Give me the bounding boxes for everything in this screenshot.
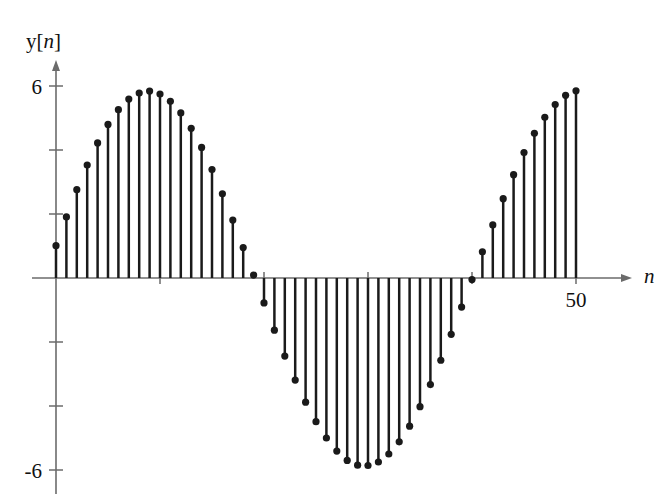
- y-axis-arrow: [52, 60, 60, 71]
- stem-marker: [104, 121, 111, 128]
- stem-marker: [115, 106, 122, 113]
- stem-5: [104, 121, 111, 278]
- stem-marker: [416, 403, 423, 410]
- stem-50: [572, 87, 579, 278]
- stem-26: [323, 278, 330, 442]
- stem-marker: [312, 418, 319, 425]
- stem-marker: [188, 125, 195, 132]
- x-axis-label: n: [644, 264, 655, 288]
- stem-1: [63, 213, 70, 278]
- stem-29: [354, 278, 361, 469]
- stem-marker: [125, 96, 132, 103]
- stem-marker: [63, 213, 70, 220]
- stem-marker: [531, 130, 538, 137]
- x-tick-label-50: 50: [566, 288, 587, 312]
- stem-marker: [468, 276, 475, 283]
- stem-marker: [177, 109, 184, 116]
- stem-18: [240, 244, 247, 278]
- stem-marker: [292, 376, 299, 383]
- stem-marker: [250, 272, 257, 279]
- stem-25: [312, 278, 319, 425]
- stem-32: [385, 278, 392, 458]
- stem-12: [177, 109, 184, 278]
- stem-38: [448, 278, 455, 338]
- stem-marker: [354, 462, 361, 469]
- stem-marker: [489, 221, 496, 228]
- stem-0: [52, 242, 59, 278]
- stem-28: [344, 278, 351, 464]
- stem-marker: [552, 101, 559, 108]
- stem-marker: [333, 448, 340, 455]
- stem-43: [500, 195, 507, 278]
- stem-39: [458, 278, 465, 311]
- y-tick-label-minus6: -6: [25, 459, 43, 483]
- stem-marker: [260, 299, 267, 306]
- stem-marker: [146, 88, 153, 95]
- stem-marker: [302, 399, 309, 406]
- stem-2: [73, 186, 80, 278]
- stem-40: [468, 276, 475, 283]
- stem-marker: [458, 304, 465, 311]
- stem-marker: [500, 195, 507, 202]
- stem-35: [416, 278, 423, 410]
- stem-marker: [520, 149, 527, 156]
- stem-23: [292, 278, 299, 384]
- stem-17: [229, 216, 236, 278]
- stem-49: [562, 92, 569, 278]
- stem-marker: [219, 190, 226, 197]
- stem-marker: [94, 139, 101, 146]
- stem-marker: [208, 166, 215, 173]
- stem-10: [156, 90, 163, 278]
- stem-37: [437, 278, 444, 364]
- stem-marker: [323, 434, 330, 441]
- stem-marker: [84, 161, 91, 168]
- stem-marker: [156, 90, 163, 97]
- stem-45: [520, 149, 527, 278]
- stem-22: [281, 278, 288, 360]
- stem-marker: [136, 89, 143, 96]
- stem-marker: [52, 242, 59, 249]
- stem-marker: [541, 114, 548, 121]
- stem-7: [125, 96, 132, 278]
- stem-marker: [281, 352, 288, 359]
- stem-42: [489, 221, 496, 278]
- stem-3: [84, 161, 91, 278]
- stem-marker: [510, 171, 517, 178]
- stem-marker: [198, 144, 205, 151]
- stem-21: [271, 278, 278, 334]
- stem-44: [510, 171, 517, 278]
- stem-41: [479, 248, 486, 278]
- stem-36: [427, 278, 434, 388]
- stem-46: [531, 130, 538, 278]
- stem-15: [208, 166, 215, 278]
- stem-4: [94, 139, 101, 278]
- stem-marker: [73, 186, 80, 193]
- stem-30: [364, 278, 371, 469]
- stem-marker: [344, 457, 351, 464]
- stem-11: [167, 98, 174, 278]
- stem-plot-figure: y[n]n6-650: [0, 0, 659, 504]
- stem-marker: [448, 331, 455, 338]
- stem-14: [198, 144, 205, 278]
- stem-9: [146, 88, 153, 278]
- stem-19: [250, 272, 257, 279]
- stem-marker: [167, 98, 174, 105]
- stem-marker: [375, 458, 382, 465]
- stem-16: [219, 190, 226, 278]
- stem-13: [188, 125, 195, 278]
- x-axis-arrow: [621, 274, 632, 282]
- stem-marker: [385, 450, 392, 457]
- stem-marker: [406, 423, 413, 430]
- stem-marker: [271, 327, 278, 334]
- stem-48: [552, 101, 559, 278]
- stem-8: [136, 89, 143, 278]
- stem-47: [541, 114, 548, 278]
- stem-marker: [479, 248, 486, 255]
- stem-marker: [364, 462, 371, 469]
- stem-marker: [396, 438, 403, 445]
- stem-33: [396, 278, 403, 445]
- stem-34: [406, 278, 413, 430]
- y-tick-label-6: 6: [32, 75, 43, 99]
- stem-6: [115, 106, 122, 278]
- stem-marker: [240, 244, 247, 251]
